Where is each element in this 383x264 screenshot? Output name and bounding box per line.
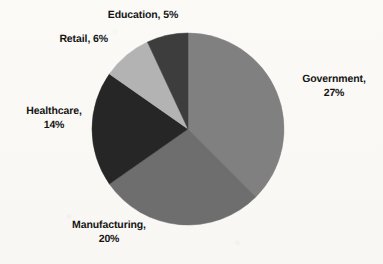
pie-label-government: Government, 27%: [286, 73, 382, 101]
pie-chart-figure: Government, 27% Manufacturing, 20% Healt…: [0, 0, 383, 264]
pie-slice-group: [92, 33, 284, 225]
pie-label-education: Education, 5%: [84, 9, 202, 23]
pie-label-healthcare: Healthcare, 14%: [8, 105, 100, 133]
pie-label-retail: Retail, 6%: [26, 33, 108, 47]
pie-label-manufacturing: Manufacturing, 20%: [48, 219, 170, 247]
